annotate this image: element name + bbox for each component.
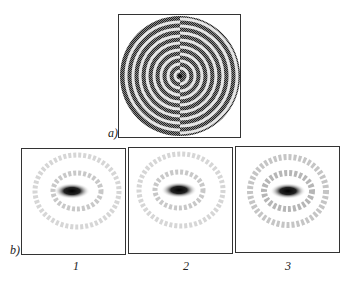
panel-b-image-1: [21, 148, 126, 255]
panel-b-image-2: [128, 147, 233, 254]
intensity-pattern-image: [129, 148, 232, 253]
caption-1: 1: [73, 259, 79, 274]
panel-a-label: a): [108, 126, 118, 141]
panel-b-image-3: [235, 146, 340, 253]
intensity-pattern-image: [236, 147, 339, 252]
caption-3: 3: [285, 259, 291, 274]
caption-2: 2: [183, 259, 189, 274]
intensity-pattern-image: [22, 149, 125, 254]
panel-a-phase-mask: [118, 14, 241, 138]
panel-b-label: b): [10, 243, 20, 258]
concentric-rings-image: [119, 15, 240, 137]
